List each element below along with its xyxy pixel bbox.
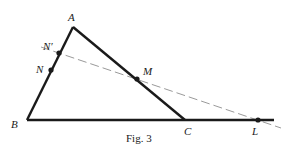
point-N	[48, 67, 53, 72]
geometry-figure: A B C N′ N M L Fig. 3	[0, 0, 294, 154]
figure-caption: Fig. 3	[126, 132, 152, 144]
point-L	[255, 117, 260, 122]
dashed-transversal	[41, 47, 281, 128]
label-C: C	[184, 125, 192, 137]
label-L: L	[251, 125, 258, 137]
point-M	[134, 76, 139, 81]
side-AC	[73, 27, 185, 120]
label-B: B	[11, 118, 18, 130]
label-N: N	[35, 63, 44, 75]
point-N-prime	[56, 50, 61, 55]
label-N-prime: N′	[42, 40, 53, 52]
label-A: A	[67, 11, 75, 23]
label-M: M	[142, 65, 153, 77]
